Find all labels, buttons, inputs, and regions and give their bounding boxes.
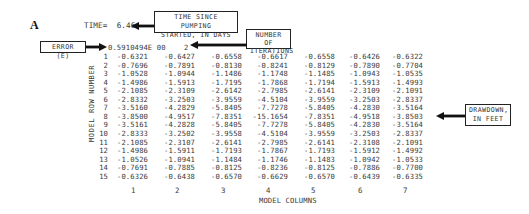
callout-drawdown-line1: DRAWDOWN, [469,106,507,115]
table-cell: -0.6438 [164,172,195,181]
arrow-left-icon [131,21,155,31]
callout-time-line1: TIME SINCE PUMPING [158,13,234,31]
error-value: 0.5910494E 00 [108,43,166,52]
table-row: 15-0.6326-0.6438-0.6570-0.6629-0.6570-0.… [0,172,529,181]
table-cell: -0.6570 [211,172,242,181]
table-cell: -0.6439 [349,172,380,181]
arrow-left-icon [436,111,466,121]
table-cell: -0.6335 [392,172,423,181]
column-number: 4 [266,186,271,195]
column-axis-label: MODEL COLUMNS [259,196,317,205]
callout-drawdown-line2: IN FEET [469,115,507,124]
time-label: TIME= 6.46 [84,21,135,30]
table-cell: -0.6570 [304,172,335,181]
column-number: 7 [403,186,408,195]
column-number: 5 [311,186,316,195]
callout-iterations-line1: NUMBER OF [250,31,287,47]
column-numbers: 1234567 [0,186,529,196]
column-number: 6 [358,186,363,195]
iterations-value: 2 [184,43,188,52]
column-number: 1 [131,186,136,195]
callout-drawdown: DRAWDOWN, IN FEET [465,104,511,126]
column-number: 2 [175,186,180,195]
row-number: 15 [94,172,108,181]
panel-label: A [30,18,39,33]
column-number: 3 [221,186,226,195]
callout-time-line2: STARTED, IN DAYS [158,31,234,40]
table-cell: -0.6629 [257,172,288,181]
callout-time: TIME SINCE PUMPING STARTED, IN DAYS [154,11,238,33]
time-label-text: TIME= [84,21,107,30]
table-cell: -0.6326 [117,172,148,181]
arrow-right-icon [86,42,108,52]
arrow-left-icon [190,40,248,50]
callout-iterations: NUMBER OF ITERATIONS [246,29,291,49]
